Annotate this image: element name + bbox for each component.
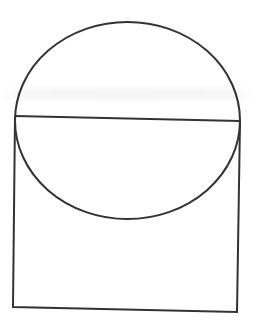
geometry-diagram	[0, 0, 255, 329]
rectangle-shape	[13, 116, 240, 312]
diameter-line	[15, 116, 240, 121]
